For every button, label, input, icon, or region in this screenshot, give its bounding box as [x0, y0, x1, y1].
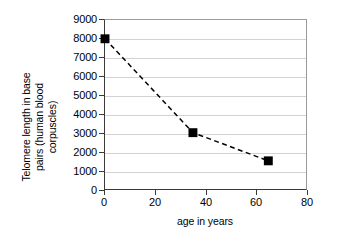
x-axis-tick-label: 60: [236, 197, 276, 208]
x-axis-tick: [206, 190, 207, 195]
y-axis-tick-label: 8000: [55, 33, 97, 44]
data-line: [105, 39, 268, 161]
y-axis-title-line-2: pairs (human blood: [32, 83, 45, 171]
telomere-length-chart: Telomere length in base pairs (human blo…: [0, 0, 351, 241]
y-axis-tick-label: 2000: [55, 147, 97, 158]
data-series-layer: [105, 20, 306, 189]
y-axis-tick-label: 5000: [55, 90, 97, 101]
data-point-marker: [188, 128, 197, 137]
data-point-marker: [101, 34, 110, 43]
y-axis-title-line-1: Telomere length in base: [19, 72, 32, 181]
x-axis-title: age in years: [100, 215, 310, 227]
x-axis-tick: [307, 190, 308, 195]
x-axis-tick: [256, 190, 257, 195]
x-axis-tick-label: 40: [186, 197, 226, 208]
y-axis-tick-label: 0: [55, 185, 97, 196]
x-axis-tick: [104, 190, 105, 195]
y-axis-tick-label: 6000: [55, 71, 97, 82]
x-axis-tick-label: 0: [84, 197, 124, 208]
y-axis-tick-label: 7000: [55, 52, 97, 63]
y-axis-tick-label: 4000: [55, 109, 97, 120]
x-axis-tick: [155, 190, 156, 195]
plot-area: [104, 19, 307, 190]
y-axis-tick-label: 1000: [55, 166, 97, 177]
y-axis-tick-label: 9000: [55, 14, 97, 25]
x-axis-tick-label: 80: [287, 197, 327, 208]
y-axis-tick-label: 3000: [55, 128, 97, 139]
x-axis-tick-label: 20: [135, 197, 175, 208]
data-point-marker: [264, 156, 273, 165]
